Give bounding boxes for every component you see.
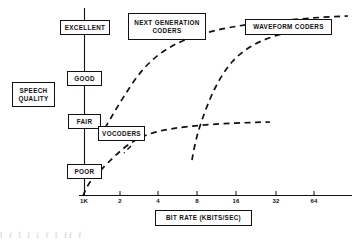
x-tick-64: 64 (310, 198, 317, 204)
y-tick-fair: FAIR (68, 114, 101, 129)
x-tick-2: 2 (118, 198, 122, 204)
x-tick-4: 4 (156, 198, 160, 204)
x-tick-16: 16 (232, 198, 239, 204)
speech-quality-vs-bit-rate-figure: SPEECH QUALITY EXCELLENT GOOD FAIR POOR … (0, 0, 363, 241)
annotation-vocoders: VOCODERS (98, 126, 145, 141)
x-tick-8: 8 (195, 198, 199, 204)
x-tick-32: 32 (272, 198, 279, 204)
y-tick-excellent: EXCELLENT (60, 20, 110, 35)
curve-waveform-coders (192, 28, 322, 160)
x-tick-1k: 1K (80, 198, 88, 204)
x-axis-title-box: BIT RATE (KBITS/SEC) (155, 210, 252, 226)
annotation-next-generation-coders: NEXT GENERATION CODERS (128, 13, 206, 40)
y-tick-poor: POOR (67, 164, 102, 179)
page-caption-fragment: l f l l i f l ff f (0, 231, 363, 240)
y-tick-good: GOOD (67, 71, 102, 86)
annotation-waveform-coders: WAVEFORM CODERS (245, 19, 332, 35)
y-axis-title-box: SPEECH QUALITY (12, 82, 55, 107)
